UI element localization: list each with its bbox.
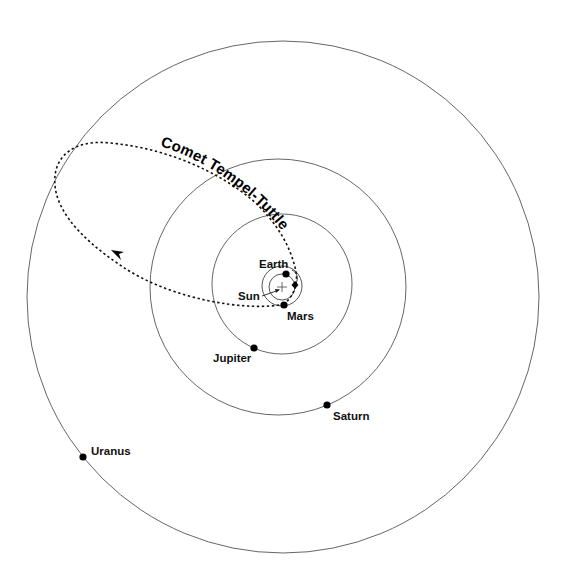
uranus-label: Uranus	[91, 445, 131, 457]
saturn-dot	[323, 401, 330, 408]
comet-position-icon	[292, 281, 299, 289]
comet-label: Comet Tempel-Tuttle	[159, 133, 293, 233]
earth-dot	[282, 270, 289, 277]
saturn-label: Saturn	[333, 410, 369, 422]
jupiter-label: Jupiter	[213, 352, 252, 364]
mars-label: Mars	[287, 310, 314, 322]
uranus-orbit	[27, 41, 539, 553]
sun-label: Sun	[238, 290, 260, 302]
solar-system-diagram: Comet Tempel-Tuttle Earth Sun Mars Jupit…	[0, 0, 561, 584]
earth-label: Earth	[259, 258, 288, 270]
mars-dot	[280, 301, 287, 308]
uranus-dot	[79, 453, 86, 460]
jupiter-dot	[250, 344, 257, 351]
comet-orbit-path	[55, 142, 297, 306]
sun-pointer-arrowhead-icon	[275, 289, 280, 293]
arrowhead-icon	[111, 250, 124, 260]
